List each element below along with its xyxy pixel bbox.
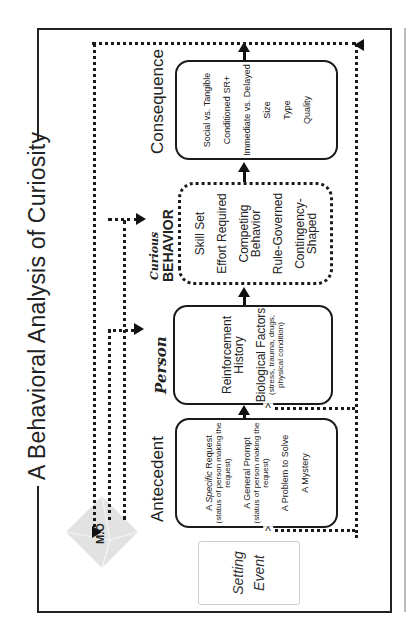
- antecedent-item-problem: A Problem to Solve: [280, 435, 290, 512]
- mo-dotted-to-behavior-drop: [108, 218, 138, 221]
- diagram-canvas: A Behavioral Analysis of Curiosity Setti…: [0, 0, 415, 638]
- setting-event-line2: Event: [249, 555, 270, 591]
- person-box: Reinforcement History Biological Factors…: [173, 305, 333, 405]
- mo-dotted-to-behavior: [123, 220, 126, 520]
- person-entry-caret-icon: ^: [263, 403, 273, 413]
- arrow-antecedent-to-person-icon: [238, 405, 250, 415]
- arrow-to-mo-icon: [92, 526, 102, 538]
- behavior-heading: BEHAVIOR: [160, 209, 176, 282]
- consequence-item-immediate: Immediate vs. Delayed: [242, 64, 252, 156]
- page-edge-rule: [404, 28, 406, 612]
- arrow-mo-to-person-icon: [134, 323, 144, 335]
- mo-dotted-to-person-drop: [108, 329, 134, 332]
- setting-dotted-antecedent: [270, 529, 355, 532]
- person-heading: Person: [152, 336, 170, 394]
- setting-event-box: Setting Event: [198, 541, 300, 605]
- behavior-item-rule-governed: Rule-Governed: [272, 193, 284, 274]
- setting-event-line1: Setting: [228, 551, 249, 595]
- antecedent-item-specific-request: A Specific Request (status of person mak…: [204, 420, 232, 526]
- mo-dotted-to-person: [108, 330, 111, 520]
- setting-dotted-person: [270, 407, 355, 410]
- consequence-item-size: Size: [262, 101, 272, 119]
- arrow-behavior-to-consequence-icon: [238, 162, 250, 172]
- feedback-dotted-bottom: [355, 44, 358, 538]
- arrow-stem-behavior-consequence: [243, 172, 246, 182]
- antecedent-entry-caret-icon: ^: [263, 526, 273, 536]
- arrow-to-bottom-loop-icon: [354, 39, 364, 51]
- behavior-item-contingency: Contingency-Shaped: [294, 185, 318, 282]
- behavior-item-skill-set: Skill Set: [194, 212, 206, 255]
- behavior-item-competing: Competing Behavior: [238, 185, 262, 282]
- behavior-box: Skill Set Effort Required Competing Beha…: [178, 182, 333, 285]
- consequence-item-conditioned: Conditioned SR+: [222, 76, 232, 144]
- antecedent-item-general-prompt: A General Prompt (status of person makin…: [242, 420, 270, 526]
- antecedent-heading: Antecedent: [148, 436, 168, 522]
- consequence-item-type: Type: [282, 100, 292, 120]
- arrow-person-to-behavior-icon: [238, 287, 250, 297]
- diagram-title: A Behavioral Analysis of Curiosity: [24, 132, 51, 480]
- feedback-dotted-top: [93, 44, 96, 532]
- feedback-dotted-right: [92, 42, 356, 45]
- consequence-heading: Consequence: [148, 49, 168, 154]
- behavior-item-effort: Effort Required: [216, 193, 228, 274]
- consequence-box: Social vs. Tangible Conditioned SR+ Imme…: [175, 60, 338, 160]
- arrow-mo-to-behavior-icon: [136, 213, 146, 225]
- consequence-item-social: Social vs. Tangible: [202, 73, 212, 147]
- person-item-biological-factors: Biological Factors (stress, trauma, drug…: [255, 307, 285, 403]
- person-item-reinforcement-history: Reinforcement History: [221, 307, 245, 403]
- antecedent-box: A Specific Request (status of person mak…: [175, 418, 338, 528]
- antecedent-item-mystery: A Mystery: [300, 453, 310, 493]
- consequence-item-quality: Quality: [302, 96, 312, 124]
